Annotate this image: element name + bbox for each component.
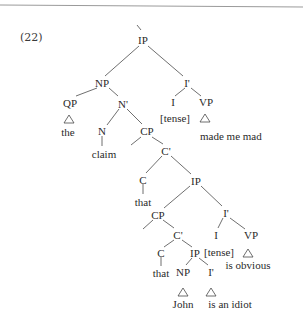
word-claim: claim	[92, 148, 117, 160]
node-c-2: C	[157, 247, 164, 259]
syntax-tree-diagram: (22)	[0, 0, 303, 324]
node-np-3: NP	[176, 266, 190, 278]
tree-labels: IP NP I' QP the N' N claim CP I [tense] …	[61, 34, 270, 310]
words-is-obvious: is obvious	[226, 259, 271, 271]
word-that-1: that	[135, 196, 152, 208]
vp-matrix-triangle-icon	[200, 114, 210, 122]
node-qp: QP	[63, 97, 77, 109]
node-ip-3: IP	[190, 247, 200, 259]
node-i-matrix: I	[171, 96, 175, 108]
node-c-1: C	[139, 174, 146, 186]
node-ibar-3: I'	[208, 266, 214, 278]
node-cbar-2: C'	[173, 229, 182, 241]
node-n: N	[98, 125, 106, 137]
node-cp-complement: CP	[140, 125, 153, 137]
node-vp-matrix: VP	[199, 96, 213, 108]
ibar-3-triangle-icon	[206, 288, 216, 296]
node-ibar-matrix: I'	[184, 77, 190, 89]
node-cp-subject: CP	[151, 209, 164, 221]
root-tick	[137, 25, 141, 30]
qp-triangle-icon	[64, 115, 74, 123]
word-john: John	[173, 298, 194, 310]
top-rule	[0, 5, 303, 7]
words-made-me-mad: made me mad	[200, 130, 262, 142]
vp-2-triangle-icon	[243, 249, 253, 257]
node-i-2: I	[214, 229, 218, 241]
words-is-an-idiot: is an idiot	[208, 298, 251, 310]
example-number: (22)	[20, 31, 43, 44]
node-cbar-1: C'	[161, 145, 170, 157]
node-ip-root: IP	[138, 34, 148, 46]
node-nbar: N'	[118, 98, 128, 110]
node-vp-2: VP	[244, 229, 258, 241]
word-tense-2: [tense]	[204, 246, 234, 258]
node-ip-2: IP	[191, 175, 201, 187]
node-np-subject: NP	[95, 77, 109, 89]
word-that-2: that	[153, 267, 170, 279]
node-ibar-2: I'	[223, 207, 229, 219]
np-3-triangle-icon	[178, 288, 188, 296]
word-tense-matrix: [tense]	[160, 112, 190, 124]
word-the: the	[61, 126, 75, 138]
